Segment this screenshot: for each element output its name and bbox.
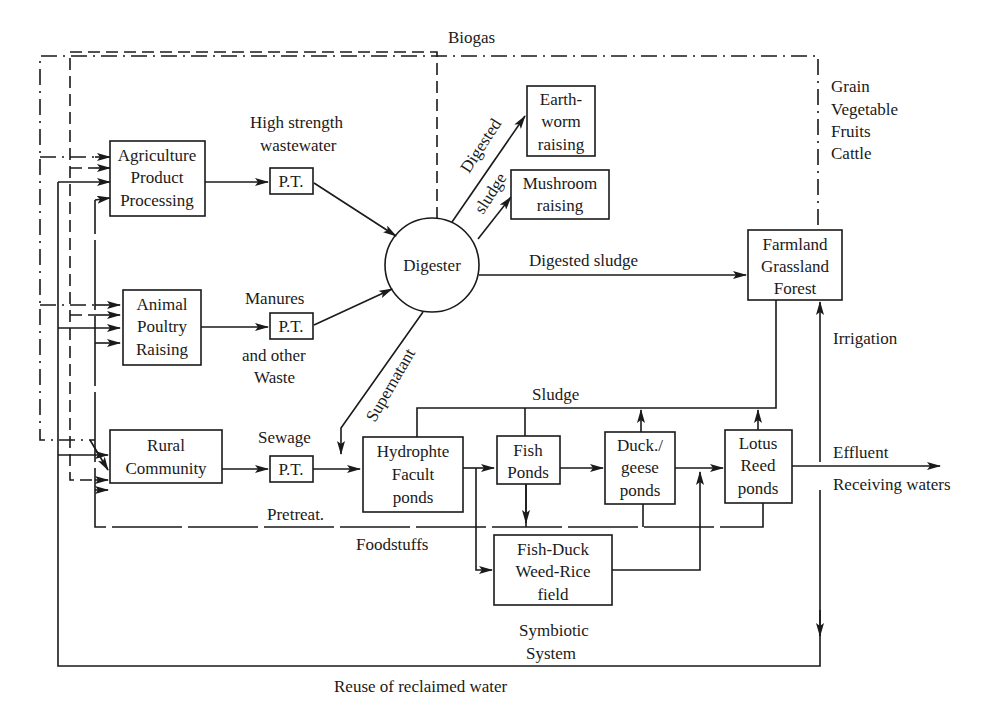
svg-text:Digested sludge: Digested sludge: [529, 251, 638, 270]
svg-text:Digester: Digester: [403, 256, 461, 275]
node-earthworm: Earth- worm raising: [527, 86, 595, 156]
node-pt-1: P.T.: [270, 168, 313, 194]
svg-text:Receiving waters: Receiving waters: [833, 475, 951, 494]
flow-diagram: Agriculture Product Processing Animal Po…: [0, 0, 1000, 708]
svg-text:Biogas: Biogas: [448, 28, 495, 47]
svg-text:Foodstuffs: Foodstuffs: [356, 535, 428, 554]
svg-text:Product: Product: [131, 168, 184, 187]
svg-text:Sewage: Sewage: [258, 428, 311, 447]
svg-text:Weed-Rice: Weed-Rice: [515, 562, 590, 581]
svg-text:P.T.: P.T.: [278, 172, 303, 191]
node-mushroom: Mushroom raising: [511, 170, 609, 219]
svg-text:P.T.: P.T.: [278, 460, 303, 479]
svg-text:Symbiotic: Symbiotic: [519, 621, 589, 640]
node-farmland: Farmland Grassland Forest: [748, 230, 842, 300]
svg-text:Sludge: Sludge: [532, 385, 579, 404]
node-animal-poultry: Animal Poultry Raising: [123, 290, 201, 365]
svg-text:Fish: Fish: [513, 441, 543, 460]
svg-text:Cattle: Cattle: [831, 144, 872, 163]
svg-text:Reuse of reclaimed water: Reuse of reclaimed water: [334, 677, 508, 696]
svg-text:Ponds: Ponds: [507, 463, 549, 482]
svg-text:Fruits: Fruits: [831, 122, 871, 141]
svg-text:High strength: High strength: [250, 113, 344, 132]
svg-text:Earth-: Earth-: [540, 90, 583, 109]
node-agriculture: Agriculture Product Processing: [110, 141, 205, 216]
svg-text:Facult: Facult: [392, 465, 435, 484]
svg-text:field: field: [537, 585, 569, 604]
svg-text:raising: raising: [538, 135, 585, 154]
svg-text:Vegetable: Vegetable: [831, 100, 898, 119]
svg-text:P.T.: P.T.: [278, 317, 303, 336]
svg-text:Hydrophte: Hydrophte: [377, 442, 450, 461]
svg-text:Manures: Manures: [245, 289, 304, 308]
svg-text:Duck./: Duck./: [617, 436, 663, 455]
node-fish-ponds: Fish Ponds: [497, 436, 560, 484]
svg-text:Raising: Raising: [136, 340, 188, 359]
node-hydrophte: Hydrophte Facult ponds: [363, 437, 463, 512]
svg-text:ponds: ponds: [620, 481, 661, 500]
node-pt-3: P.T.: [270, 456, 313, 482]
svg-text:Poultry: Poultry: [137, 317, 188, 336]
svg-text:Lotus: Lotus: [739, 434, 778, 453]
svg-text:Animal: Animal: [137, 295, 188, 314]
svg-text:Grassland: Grassland: [761, 257, 829, 276]
svg-text:Reed: Reed: [741, 456, 776, 475]
svg-text:geese: geese: [621, 458, 659, 477]
svg-text:Agriculture: Agriculture: [118, 146, 196, 165]
node-digester: Digester: [385, 218, 479, 312]
svg-text:Community: Community: [125, 459, 207, 478]
svg-text:Mushroom: Mushroom: [523, 174, 598, 193]
svg-text:ponds: ponds: [738, 479, 779, 498]
svg-text:Grain: Grain: [831, 77, 870, 96]
node-rural-community: Rural Community: [110, 430, 222, 483]
svg-text:Waste: Waste: [254, 368, 295, 387]
svg-text:Processing: Processing: [120, 191, 194, 210]
svg-text:raising: raising: [537, 196, 584, 215]
svg-text:wastewater: wastewater: [260, 136, 337, 155]
node-pt-2: P.T.: [270, 313, 313, 339]
svg-text:Farmland: Farmland: [762, 235, 828, 254]
node-fish-duck-rice-field: Fish-Duck Weed-Rice field: [494, 535, 612, 605]
svg-text:Pretreat.: Pretreat.: [267, 505, 324, 524]
svg-text:Effluent: Effluent: [833, 443, 889, 462]
node-lotus-reed: Lotus Reed ponds: [725, 430, 792, 503]
node-duck-geese: Duck./ geese ponds: [605, 432, 675, 504]
svg-text:ponds: ponds: [393, 488, 434, 507]
svg-text:System: System: [526, 644, 576, 663]
svg-text:Forest: Forest: [774, 279, 817, 298]
svg-text:and other: and other: [242, 346, 306, 365]
svg-text:sludge: sludge: [470, 170, 510, 218]
svg-text:Rural: Rural: [147, 436, 185, 455]
svg-text:Digested: Digested: [456, 115, 505, 176]
svg-text:Fish-Duck: Fish-Duck: [517, 540, 589, 559]
svg-text:worm: worm: [541, 112, 581, 131]
svg-text:Irrigation: Irrigation: [833, 329, 898, 348]
